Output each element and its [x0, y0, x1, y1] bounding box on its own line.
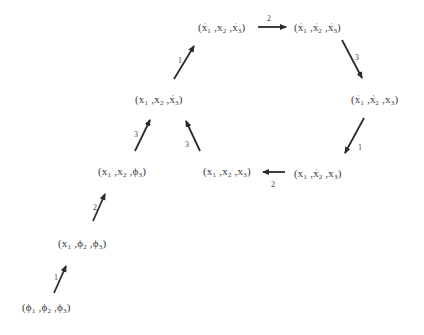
state-node: (ϕ1 ,ϕ2 ,ϕ3): [22, 300, 71, 318]
transition-arrow: [174, 46, 194, 79]
transition-label: 2: [93, 203, 97, 213]
transition-arrow: [342, 40, 362, 78]
state-node: (x1 ,x2 ,x′3): [135, 90, 183, 110]
state-transition-diagram: (ϕ1 ,ϕ2 ,ϕ3)(x1 ,ϕ2 ,ϕ3)(x1 ,x2 ,ϕ3)(x1 …: [0, 0, 424, 335]
transition-label: 1: [358, 143, 362, 153]
state-node: (x1 ,x2 ,x3): [203, 164, 251, 182]
transition-label: 3: [185, 140, 189, 150]
transition-label: 1: [54, 273, 58, 283]
state-node: (x′1 ,x2 ,x′3): [198, 18, 245, 38]
transition-label: 3: [134, 130, 138, 140]
state-node: (x1 ,x′2 ,x3): [294, 164, 342, 184]
state-node: (x1 ,ϕ2 ,ϕ3): [58, 236, 106, 254]
state-node: (x′1 ,x′2 ,x3): [351, 90, 398, 110]
state-node: (x1 ,x2 ,ϕ3): [98, 164, 146, 182]
transition-label: 2: [267, 14, 271, 24]
transition-label: 1: [178, 56, 182, 66]
transition-label: 2: [271, 180, 275, 190]
transition-label: 3: [355, 53, 359, 63]
state-node: (x′1 ,x′2 ,x′3): [294, 18, 341, 38]
